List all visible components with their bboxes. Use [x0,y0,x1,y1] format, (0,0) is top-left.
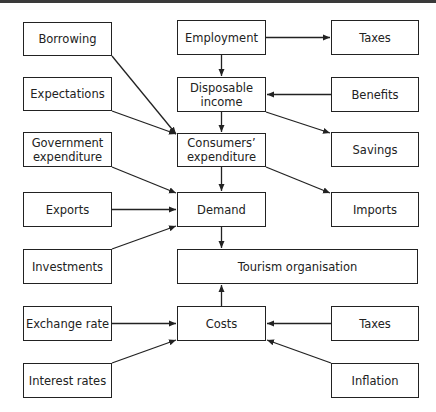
node-label: Disposable income [190,81,253,109]
node-costs: Costs [177,306,266,341]
node-label: Tourism organisation [238,260,358,274]
node-label: Imports [353,203,397,217]
node-label: Interest rates [29,374,106,388]
node-label: Inflation [352,374,399,388]
node-label: Demand [197,203,246,217]
node-label: Borrowing [38,32,96,46]
arrow-consumers-expenditure-to-imports [266,167,330,193]
arrow-disposable-income-to-savings [266,112,330,133]
node-borrowing: Borrowing [23,22,112,56]
arrow-investments-to-demand [112,226,176,249]
node-label: Government expenditure [32,136,104,164]
node-label: Employment [185,31,258,45]
node-label: Exchange rate [26,317,109,331]
node-investments: Investments [23,249,112,284]
node-inflation: Inflation [331,363,419,398]
node-exchange-rate: Exchange rate [23,306,112,341]
node-label: Benefits [351,88,398,102]
arrow-interest-rates-to-costs [112,340,176,363]
node-taxes-bottom: Taxes [331,306,419,341]
node-interest-rates: Interest rates [23,363,112,398]
node-demand: Demand [177,192,266,227]
node-label: Taxes [359,31,391,45]
node-disposable-income: Disposable income [177,77,266,112]
node-exports: Exports [23,192,112,227]
node-benefits: Benefits [331,77,419,112]
node-taxes-top: Taxes [331,20,419,55]
node-consumers-expenditure: Consumers’ expenditure [177,133,266,167]
node-label: Taxes [359,317,391,331]
arrow-government-expenditure-to-demand [112,167,176,193]
node-employment: Employment [177,20,266,55]
node-label: Expectations [30,87,104,101]
node-imports: Imports [331,192,419,227]
node-government-expenditure: Government expenditure [23,132,112,167]
node-savings: Savings [331,132,419,167]
arrow-inflation-to-costs [267,340,331,363]
node-label: Investments [32,260,103,274]
node-label: Exports [46,203,90,217]
node-label: Consumers’ expenditure [187,136,256,164]
node-label: Costs [206,317,238,331]
node-expectations: Expectations [23,77,112,111]
node-tourism-organisation: Tourism organisation [177,249,418,284]
node-label: Savings [353,143,398,157]
